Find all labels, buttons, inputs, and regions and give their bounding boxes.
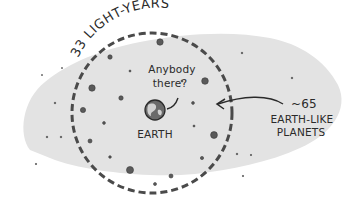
planets-line-2: PLANETS bbox=[277, 126, 326, 138]
planets-line-1: EARTH-LIKE bbox=[271, 113, 334, 125]
speech-line-2: there? bbox=[153, 77, 188, 89]
planet-count: ~65 bbox=[291, 97, 317, 111]
diagram-canvas: 33 LIGHT-YEARS bbox=[0, 0, 364, 209]
earth-label: EARTH bbox=[137, 128, 173, 140]
speech-line-1: Anybody bbox=[148, 63, 195, 75]
earth-icon bbox=[145, 100, 165, 120]
